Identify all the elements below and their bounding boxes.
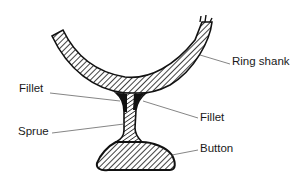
- leader-sprue: [52, 124, 124, 133]
- leader-button: [172, 150, 198, 155]
- leader-fillet-right: [143, 101, 198, 118]
- ring-casting-diagram: [0, 0, 307, 187]
- sprue-shape: [116, 93, 146, 142]
- fillet-left-shape: [116, 93, 127, 112]
- ring-shank-shape: [52, 22, 212, 94]
- label-sprue: Sprue: [18, 126, 49, 138]
- button-shape: [97, 142, 175, 170]
- ring-shank-strands: [200, 15, 212, 22]
- leader-ring-shank: [200, 55, 230, 64]
- leader-fillet-left: [50, 93, 120, 101]
- label-fillet-left: Fillet: [19, 83, 43, 95]
- label-ring-shank: Ring shank: [232, 56, 290, 68]
- label-fillet-right: Fillet: [200, 112, 224, 124]
- label-button: Button: [200, 143, 233, 155]
